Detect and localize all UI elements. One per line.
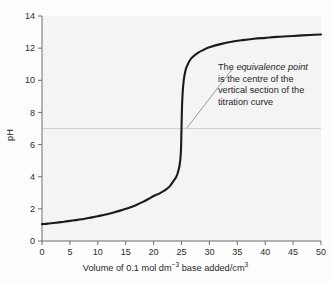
x-tick-label-20: 20	[149, 247, 159, 257]
x-tick-label-40: 40	[260, 247, 270, 257]
y-tick-label-8: 8	[30, 108, 35, 118]
y-tick-label-0: 0	[30, 236, 35, 246]
x-axis-title-unit-exponent: 3	[245, 261, 249, 268]
x-axis-title-prefix: Volume of 0.1 mol dm	[83, 263, 172, 273]
titration-curve-figure: 05101520253035404550 02468101214 pH Volu…	[0, 0, 331, 283]
x-axis-title-middle: base added/cm	[179, 263, 244, 273]
y-tick-group: 02468101214	[25, 11, 42, 246]
chart-canvas: 05101520253035404550 02468101214	[0, 0, 331, 283]
x-tick-label-0: 0	[39, 247, 44, 257]
x-tick-group: 05101520253035404550	[39, 241, 326, 257]
x-tick-label-45: 45	[288, 247, 298, 257]
y-tick-label-2: 2	[30, 204, 35, 214]
y-tick-label-4: 4	[30, 172, 35, 182]
x-tick-label-25: 25	[176, 247, 186, 257]
annotation-line3: vertical section of the	[218, 85, 304, 95]
x-tick-label-10: 10	[93, 247, 103, 257]
y-tick-label-12: 12	[25, 43, 35, 53]
x-tick-label-35: 35	[232, 247, 242, 257]
y-axis-title-text: pH	[5, 129, 15, 141]
x-tick-label-50: 50	[316, 247, 326, 257]
x-tick-label-5: 5	[67, 247, 72, 257]
y-tick-label-10: 10	[25, 75, 35, 85]
annotation-emphasis: equivalence point	[236, 62, 308, 72]
x-tick-label-15: 15	[121, 247, 131, 257]
y-tick-label-14: 14	[25, 11, 35, 21]
y-axis-title: pH	[5, 120, 15, 150]
x-tick-label-30: 30	[204, 247, 214, 257]
annotation-line1-prefix: The	[218, 62, 236, 72]
x-axis-title: Volume of 0.1 mol dm−3 base added/cm3	[0, 261, 331, 273]
equivalence-point-annotation: The equivalence point is the centre of t…	[218, 62, 328, 108]
y-tick-label-6: 6	[30, 140, 35, 150]
annotation-line4: titration curve	[218, 97, 273, 107]
annotation-line2: is the centre of the	[218, 74, 294, 84]
